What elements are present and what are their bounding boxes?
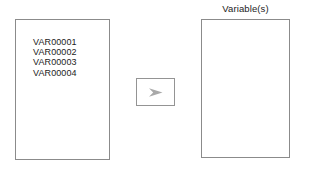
source-variable-list-items: VAR00001 VAR00002 VAR00003 VAR00004 xyxy=(33,37,107,78)
list-item[interactable]: VAR00004 xyxy=(33,68,107,78)
right-arrow-icon xyxy=(149,87,163,98)
transfer-variable-button[interactable] xyxy=(136,78,175,106)
list-item[interactable]: VAR00002 xyxy=(33,47,107,57)
target-variable-list[interactable] xyxy=(201,19,290,158)
source-variable-list[interactable]: VAR00001 VAR00002 VAR00003 VAR00004 xyxy=(15,19,110,160)
list-item[interactable]: VAR00003 xyxy=(33,57,107,67)
variable-selection-dialog: VAR00001 VAR00002 VAR00003 VAR00004 Vari… xyxy=(0,0,314,171)
target-panel-label: Variable(s) xyxy=(201,3,290,15)
list-item[interactable]: VAR00001 xyxy=(33,37,107,47)
